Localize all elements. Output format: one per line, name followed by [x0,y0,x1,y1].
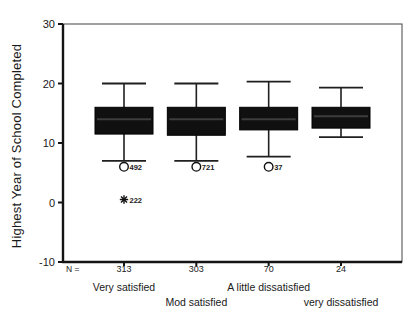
outlier-circle [192,163,201,172]
y-tick-label: 0 [49,197,55,209]
y-tick-label: 20 [43,78,55,90]
y-tick-label: 30 [43,18,55,30]
y-axis-title: Highest Year of School Completed [9,44,24,248]
outlier-label: 37 [274,163,282,172]
y-tick-label: 10 [43,137,55,149]
outlier-label: 492 [130,163,143,172]
boxplot-canvas: 3020100-10492222313Very satisfied721303M… [0,0,420,321]
category-label: Very satisfied [93,281,156,293]
category-label: very dissatisfied [304,296,379,308]
box-2 [167,107,225,135]
outlier-label: 721 [202,163,215,172]
outlier-circle [264,163,273,172]
box-1 [95,107,153,134]
category-label: Mod satisfied [165,296,227,308]
n-value: 70 [264,264,274,274]
y-tick-label: -10 [39,256,55,268]
plot-frame [63,24,402,262]
n-value: 24 [336,264,346,274]
boxplot-figure: 3020100-10492222313Very satisfied721303M… [0,0,420,321]
n-row-prefix: N = [66,264,79,274]
category-label: A little dissatisfied [227,281,310,293]
outlier-circle [120,163,129,172]
n-value: 303 [189,264,204,274]
n-value: 313 [116,264,131,274]
extreme-label: 222 [130,196,143,205]
box-4 [312,107,370,128]
